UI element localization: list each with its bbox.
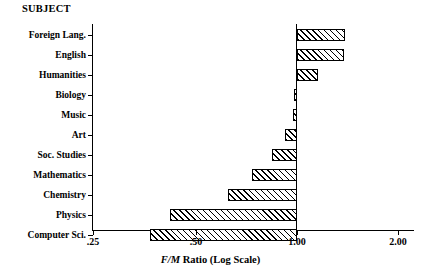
bar-row: Art bbox=[0, 126, 421, 145]
bar bbox=[297, 29, 345, 41]
category-tick-mark bbox=[88, 175, 93, 176]
bar-chart: SUBJECT Foreign Lang.EnglishHumanitiesBi… bbox=[0, 0, 421, 277]
bar bbox=[297, 49, 344, 61]
bar-row-label: English bbox=[0, 46, 86, 65]
bar-row-label: Humanities bbox=[0, 66, 86, 85]
bar bbox=[285, 129, 297, 141]
bar-row-label: Physics bbox=[0, 206, 86, 225]
category-tick-mark bbox=[88, 55, 93, 56]
x-axis-title-italic: F/M bbox=[161, 254, 180, 265]
x-axis-tick-mark bbox=[93, 230, 94, 235]
bar-row: Soc. Studies bbox=[0, 146, 421, 165]
x-axis-tick-label: .50 bbox=[166, 236, 226, 247]
bar-row: Humanities bbox=[0, 66, 421, 85]
bar-row-label: Chemistry bbox=[0, 186, 86, 205]
bar-row: Mathematics bbox=[0, 166, 421, 185]
x-axis-tick-label: 1.00 bbox=[267, 236, 327, 247]
x-axis-tick-mark bbox=[297, 230, 298, 235]
bar-row-label: Soc. Studies bbox=[0, 146, 86, 165]
x-axis-tick-label: .25 bbox=[63, 236, 123, 247]
bar bbox=[252, 169, 297, 181]
bar-row-label: Biology bbox=[0, 86, 86, 105]
x-axis-title: F/M Ratio (Log Scale) bbox=[0, 254, 421, 265]
plot-area: Foreign Lang.EnglishHumanitiesBiologyMus… bbox=[0, 0, 421, 277]
bar-row: Foreign Lang. bbox=[0, 26, 421, 45]
bar-row: Music bbox=[0, 106, 421, 125]
bar-row: Physics bbox=[0, 206, 421, 225]
bar-row-label: Music bbox=[0, 106, 86, 125]
bar-row: Biology bbox=[0, 86, 421, 105]
x-axis-tick-label: 2.00 bbox=[368, 236, 421, 247]
bar bbox=[297, 69, 318, 81]
x-axis-title-rest: Ratio (Log Scale) bbox=[180, 254, 260, 265]
bar-row: Chemistry bbox=[0, 186, 421, 205]
bar-row: English bbox=[0, 46, 421, 65]
category-tick-mark bbox=[88, 95, 93, 96]
bar-row-label: Mathematics bbox=[0, 166, 86, 185]
bar bbox=[170, 209, 297, 221]
bar-row-label: Foreign Lang. bbox=[0, 26, 86, 45]
bar bbox=[294, 89, 297, 101]
bar bbox=[272, 149, 297, 161]
bar bbox=[228, 189, 297, 201]
bar bbox=[293, 109, 297, 121]
category-tick-mark bbox=[88, 135, 93, 136]
x-axis-tick-mark bbox=[398, 230, 399, 235]
category-tick-mark bbox=[88, 195, 93, 196]
x-axis-tick-mark bbox=[196, 230, 197, 235]
category-tick-mark bbox=[88, 115, 93, 116]
bar-row-label: Art bbox=[0, 126, 86, 145]
category-tick-mark bbox=[88, 35, 93, 36]
category-tick-mark bbox=[88, 215, 93, 216]
category-tick-mark bbox=[88, 75, 93, 76]
category-tick-mark bbox=[88, 155, 93, 156]
